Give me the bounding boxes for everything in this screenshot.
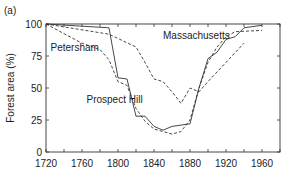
x-tick-label: 1720 [35,158,58,169]
x-tick-label: 1800 [107,158,130,169]
annotation-massachusetts: Massachusetts [163,30,230,41]
forest-area-chart: (a)1720176018001840188019201960025507510… [0,0,290,180]
x-tick-label: 1760 [71,158,94,169]
y-tick-label: 25 [31,115,43,126]
y-tick-label: 0 [36,147,42,158]
x-tick-label: 1920 [215,158,238,169]
annotation-petersham: Petersham [51,42,99,53]
y-axis-label: Forest area (%) [5,53,16,122]
y-tick-label: 75 [31,51,43,62]
y-tick-label: 100 [25,19,42,30]
panel-label: (a) [4,5,16,16]
annotation-prospect-hill: Prospect Hill [87,94,143,105]
x-tick-label: 1840 [143,158,166,169]
y-tick-label: 50 [31,83,43,94]
x-tick-label: 1880 [179,158,202,169]
x-tick-label: 1960 [251,158,274,169]
